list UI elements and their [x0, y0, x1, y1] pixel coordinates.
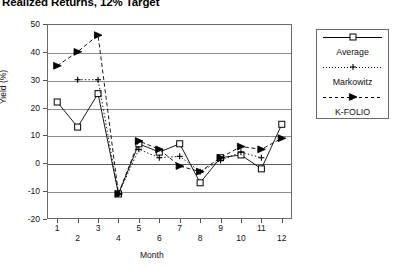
- y-tick-label: -10: [0, 186, 40, 196]
- triangle-marker: [349, 94, 357, 101]
- x-axis-label: Month: [140, 250, 164, 260]
- x-tick-label: 1: [49, 223, 65, 233]
- x-tick-mark: [159, 219, 160, 223]
- x-tick-label: 7: [172, 223, 188, 233]
- legend-key-average: [317, 30, 388, 45]
- y-tick-label: -20: [0, 214, 40, 224]
- gridline: [48, 81, 291, 82]
- x-tick-mark: [282, 219, 283, 223]
- y-tick-label: 50: [0, 19, 40, 29]
- square-marker: [350, 34, 356, 40]
- x-tick-label: 6: [151, 233, 167, 243]
- x-tick-mark: [241, 219, 242, 223]
- y-tick-mark: [43, 108, 47, 109]
- x-tick-mark: [78, 219, 79, 223]
- y-tick-mark: [43, 135, 47, 136]
- x-tick-label: 10: [233, 233, 249, 243]
- plus-marker: [347, 61, 359, 73]
- x-tick-label: 2: [70, 233, 86, 243]
- chart-root: Realized Returns, 12% Target Yield (%) M…: [0, 0, 395, 268]
- y-tick-mark: [43, 24, 47, 25]
- x-tick-mark: [118, 219, 119, 223]
- y-tick-label: 40: [0, 47, 40, 57]
- chart-legend: AverageMarkowitzK-FOLIO: [316, 29, 389, 119]
- legend-label: K-FOLIO: [317, 105, 388, 120]
- plus-marker: [350, 64, 356, 70]
- x-tick-label: 12: [274, 233, 290, 243]
- y-tick-mark: [43, 191, 47, 192]
- chart-title: Realized Returns, 12% Target: [2, 0, 159, 8]
- x-tick-label: 11: [253, 223, 269, 233]
- x-tick-mark: [200, 219, 201, 223]
- y-tick-label: 30: [0, 75, 40, 85]
- x-tick-label: 8: [192, 233, 208, 243]
- y-tick-mark: [43, 80, 47, 81]
- y-tick-mark: [43, 52, 47, 53]
- square-marker: [347, 31, 359, 43]
- gridline: [48, 109, 291, 110]
- gridline: [48, 53, 291, 54]
- gridline: [48, 164, 291, 165]
- y-tick-mark: [43, 163, 47, 164]
- triangle-marker: [347, 91, 359, 103]
- gridline: [48, 192, 291, 193]
- legend-label: Markowitz: [317, 75, 388, 90]
- y-tick-label: 10: [0, 130, 40, 140]
- x-tick-label: 5: [131, 223, 147, 233]
- legend-label: Average: [317, 45, 388, 60]
- y-tick-mark: [43, 219, 47, 220]
- x-tick-label: 9: [213, 223, 229, 233]
- y-tick-label: 0: [0, 158, 40, 168]
- legend-key-markowitz: [317, 60, 388, 75]
- gridline: [48, 136, 291, 137]
- x-tick-label: 3: [90, 223, 106, 233]
- x-tick-label: 4: [110, 233, 126, 243]
- y-tick-label: 20: [0, 103, 40, 113]
- legend-key-k-folio: [317, 90, 388, 105]
- plot-area: [47, 24, 292, 219]
